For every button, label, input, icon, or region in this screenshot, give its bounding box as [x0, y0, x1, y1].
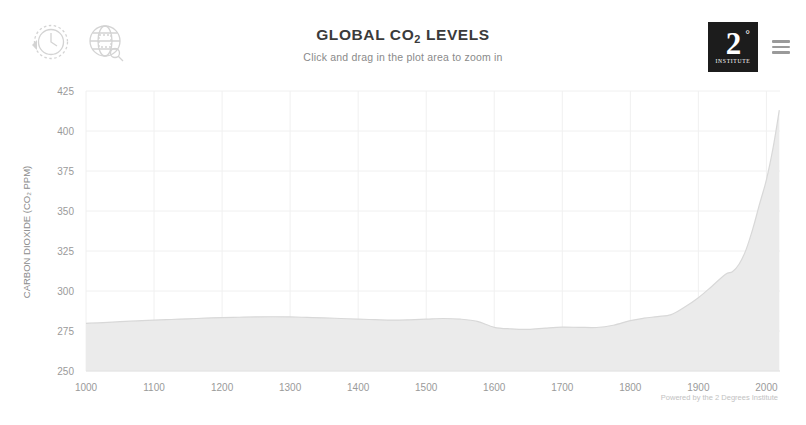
- x-tick-label: 1500: [415, 382, 438, 393]
- y-tick-label: 300: [57, 286, 74, 297]
- y-tick-label: 350: [57, 206, 74, 217]
- co2-line: [86, 110, 779, 329]
- y-axis-title: CARBON DIOXIDE (CO₂ PPM): [21, 166, 32, 298]
- y-tick-label: 250: [57, 366, 74, 377]
- x-tick-label: 1700: [551, 382, 574, 393]
- co2-chart-app: GLOBAL CO2 LEVELS Click and drag in the …: [0, 0, 806, 425]
- x-tick-label: 1000: [75, 382, 98, 393]
- chart-credit: Powered by the 2 Degrees Institute: [661, 393, 778, 402]
- y-tick-label: 275: [57, 326, 74, 337]
- y-tick-label: 425: [57, 86, 74, 97]
- x-tick-label: 2000: [755, 382, 778, 393]
- y-tick-label: 400: [57, 126, 74, 137]
- x-tick-label: 1100: [143, 382, 165, 393]
- x-tick-label: 1200: [211, 382, 234, 393]
- y-tick-label: 375: [57, 166, 74, 177]
- plot-area[interactable]: 250275300325350375400425 100011001200130…: [0, 0, 806, 425]
- y-axis-ticks: 250275300325350375400425: [57, 86, 74, 377]
- x-tick-label: 1300: [279, 382, 302, 393]
- x-tick-label: 1600: [483, 382, 506, 393]
- chart-svg[interactable]: 250275300325350375400425 100011001200130…: [0, 0, 806, 425]
- x-tick-label: 1400: [347, 382, 370, 393]
- x-axis-ticks: 1000110012001300140015001600170018001900…: [75, 382, 778, 393]
- y-tick-label: 325: [57, 246, 74, 257]
- x-tick-label: 1900: [687, 382, 710, 393]
- x-tick-label: 1800: [619, 382, 642, 393]
- co2-area-fill: [86, 110, 779, 371]
